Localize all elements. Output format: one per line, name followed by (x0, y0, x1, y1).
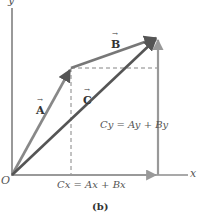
cy-label: Cy = Ay + By (100, 119, 168, 130)
vector-b-label: B (111, 38, 120, 51)
vector-c-label: C (83, 94, 92, 107)
origin-label: O (1, 174, 10, 187)
vector-c (12, 39, 156, 175)
x-axis-label: x (190, 167, 196, 180)
figure-caption: (b) (92, 201, 108, 212)
y-axis-label: y (8, 0, 14, 7)
vector-a (12, 70, 70, 175)
vector-a-label: A (36, 104, 45, 117)
cx-label: Cx = Ax + Bx (57, 179, 126, 190)
